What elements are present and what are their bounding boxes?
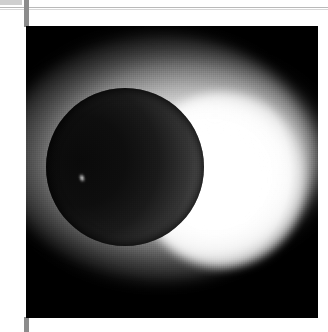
- eclipse-photo: [26, 26, 318, 318]
- scan-top-rule-secondary: [0, 9, 328, 10]
- scan-binding-bar-bottom: [24, 317, 29, 332]
- page-canvas: Total solar eclipse: dark lunar disk sur…: [0, 0, 328, 332]
- scan-binding-bar-top: [24, 0, 29, 27]
- scan-top-rule: [0, 7, 328, 8]
- scan-corner-tick: [0, 0, 22, 5]
- lunar-disk: [46, 88, 204, 246]
